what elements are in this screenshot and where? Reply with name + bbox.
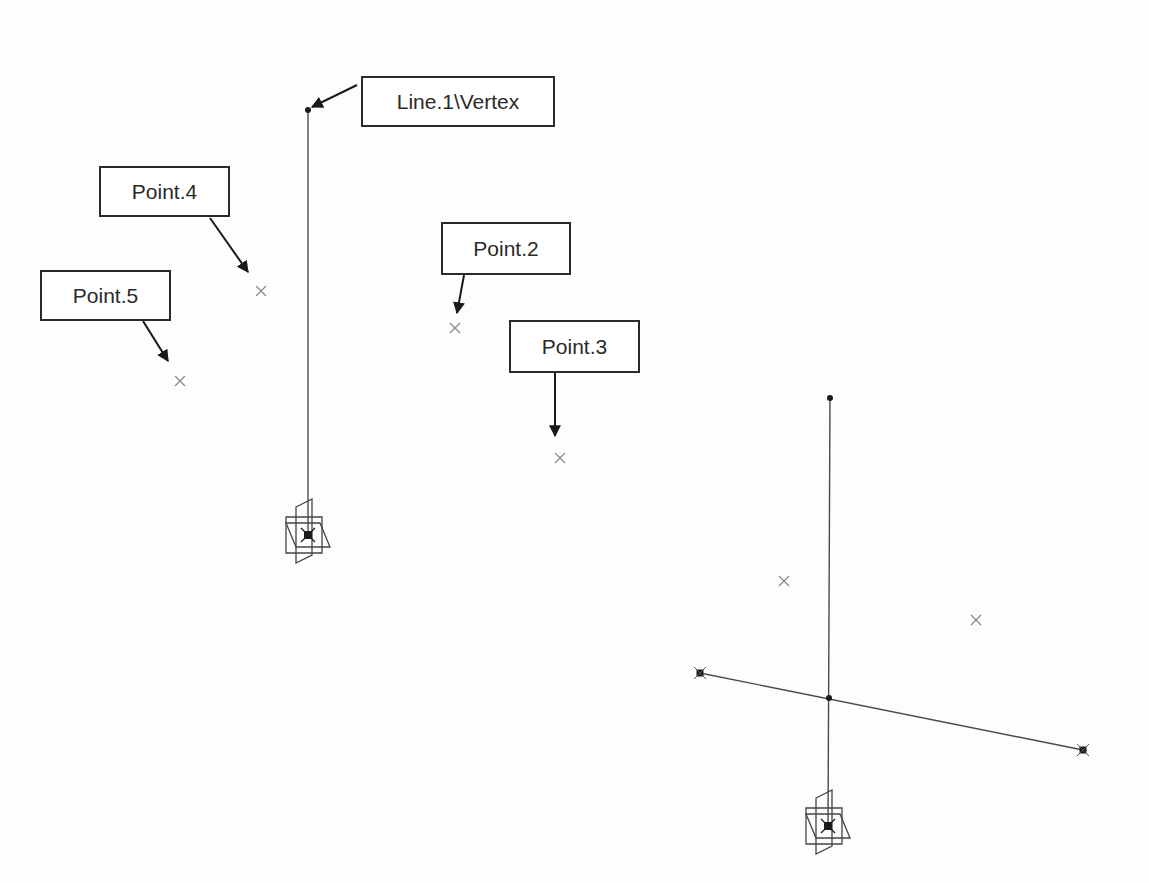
callout-point-3: Point.3 [509,320,640,373]
callout-point-4: Point.4 [99,166,230,217]
point-4[interactable] [256,286,266,296]
point-5[interactable] [175,376,185,386]
point-3[interactable] [555,453,565,463]
cross-line[interactable] [700,673,1083,750]
callout-line-vertex: Line.1\Vertex [361,76,555,127]
arrow-point-4 [210,218,248,272]
cross-line-start-marker[interactable] [694,667,706,679]
point-right-b[interactable] [971,615,981,625]
point-right-a[interactable] [779,576,789,586]
callout-point-2: Point.2 [441,222,571,275]
cross-line-end-marker[interactable] [1077,744,1089,756]
arrow-line-vertex [312,85,357,107]
arrow-point-2 [457,275,464,313]
right-view [694,395,1089,854]
vertical-line[interactable] [828,398,830,826]
arrow-point-5 [143,321,168,361]
drawing-canvas [0,0,1149,883]
line-vertex[interactable] [305,107,311,113]
vertical-line-vertex[interactable] [827,395,833,401]
point-2[interactable] [450,323,460,333]
callout-point-5: Point.5 [40,270,171,321]
intersection-point[interactable] [826,695,832,701]
left-view [175,107,565,563]
